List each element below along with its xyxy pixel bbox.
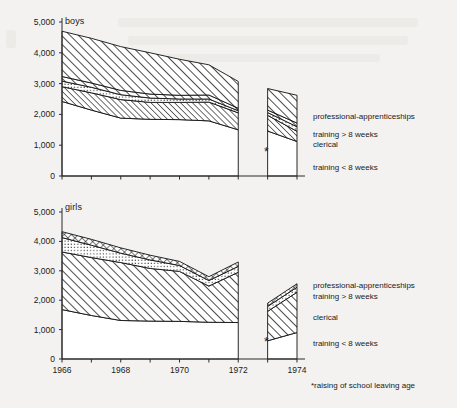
legend-item-training-lt-8-weeks: training < 8 weeks [313,339,378,349]
legend-item-professional-apprenticeships: professional-apprenticeships [313,112,415,122]
x-tick-label: 1970 [170,365,189,375]
legend-item-training-gt-8-weeks: training > 8 weeks [313,292,378,302]
y-tick-label: 5,000 [34,17,56,27]
panel-title-boys: boys [65,16,84,26]
x-tick-label: 1968 [111,365,130,375]
y-tick-label: 3,000 [34,266,56,276]
star-marker-girls: * [264,336,269,348]
girls-chart-svg: 5,0004,0003,0002,0001,000019661968197019… [0,192,320,392]
boys-chart-svg: 5,0004,0003,0002,0001,0000 [0,0,320,195]
star-marker-boys: * [264,146,269,158]
legend-item-clerical: clerical [313,313,338,323]
y-tick-label: 0 [50,354,55,364]
legend-item-professional-apprenticeships: professional-apprenticeships [313,281,415,291]
y-tick-label: 5,000 [34,207,56,217]
y-tick-label: 2,000 [34,109,56,119]
legend-item-training-lt-8-weeks: training < 8 weeks [313,163,378,173]
y-tick-label: 2,000 [34,295,56,305]
panel-boys: 5,0004,0003,0002,0001,0000 boys * [0,0,320,195]
legend-item-clerical: clerical [313,140,338,150]
y-tick-label: 3,000 [34,79,56,89]
y-tick-label: 4,000 [34,236,56,246]
x-tick-label: 1966 [53,365,72,375]
y-tick-label: 4,000 [34,48,56,58]
x-tick-label: 1974 [288,365,307,375]
panel-title-girls: girls [65,202,82,212]
x-tick-label: 1972 [229,365,248,375]
legend-item-training-gt-8-weeks: training > 8 weeks [313,130,378,140]
panel-girls: 5,0004,0003,0002,0001,000019661968197019… [0,192,320,392]
footnote-raising-school-leaving-age: *raising of school leaving age [311,381,415,390]
y-tick-label: 1,000 [34,140,56,150]
y-tick-label: 0 [50,171,55,181]
y-tick-label: 1,000 [34,325,56,335]
figure-page: 5,0004,0003,0002,0001,0000 boys * profes… [0,0,457,408]
